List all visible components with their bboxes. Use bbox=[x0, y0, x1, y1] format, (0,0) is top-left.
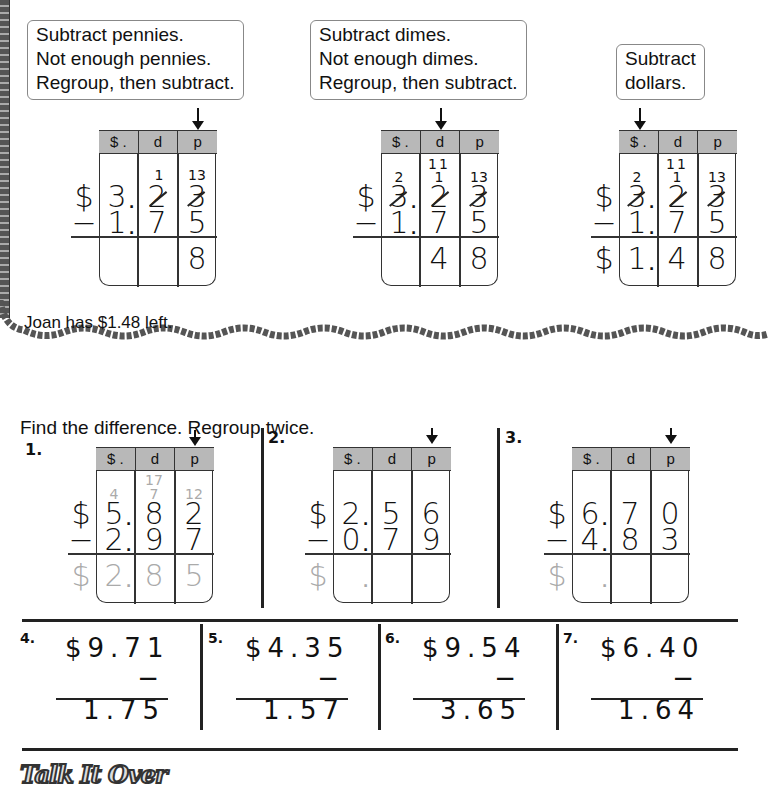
conclusion-text: Joan has $1.48 left. bbox=[24, 313, 172, 333]
problem-label-5: 5. bbox=[208, 630, 223, 646]
answer-dimes: 4 bbox=[659, 242, 695, 276]
header-pennies: p bbox=[178, 131, 217, 153]
answer-line-7[interactable] bbox=[591, 698, 703, 700]
answer-pennies: 8 bbox=[699, 242, 735, 276]
minus-sign: − bbox=[66, 523, 96, 557]
arrow-down-icon bbox=[639, 108, 641, 128]
problem-5-top: $4.35 bbox=[245, 632, 345, 664]
answer-dollars-box[interactable] bbox=[333, 555, 371, 599]
problem-6-top: $9.54 bbox=[422, 632, 522, 664]
answer-dollar-sign: $ bbox=[542, 559, 572, 593]
answer-dimes: 4 bbox=[421, 242, 457, 276]
bottom-pennies: 9 bbox=[413, 523, 449, 557]
vertical-problems-row: 4. $9.71 − 1.75 5. $4.35 − 1.57 6. $9.54… bbox=[0, 630, 768, 740]
answer-dimes[interactable]: 8 bbox=[136, 559, 172, 593]
answer-dollars-box[interactable] bbox=[572, 555, 610, 599]
bottom-dimes: 7 bbox=[139, 206, 175, 240]
answer-line-4[interactable] bbox=[56, 698, 168, 700]
callout-line: Not enough pennies. bbox=[36, 47, 235, 71]
place-value-grid-step1: $ . d p 1 13 $ 3 . 2 3 − 1 . 7 5 8 bbox=[99, 130, 217, 287]
callout-step3: Subtract dollars. bbox=[616, 44, 705, 100]
header-dollars: $ . bbox=[333, 448, 373, 470]
place-value-grid-problem1: $ . d p 4 17 7 12 $ 5 . 8 2 − 2 . 9 7 $ … bbox=[96, 447, 214, 604]
arrow-down-icon bbox=[194, 430, 196, 444]
problem-label-7: 7. bbox=[563, 630, 578, 646]
header-dimes: d bbox=[139, 131, 179, 153]
arrow-down-icon bbox=[197, 108, 199, 128]
answer-pennies-box[interactable] bbox=[413, 555, 449, 599]
arrow-down-icon bbox=[440, 108, 442, 128]
regroup-dimes-top: 17 bbox=[136, 473, 172, 487]
arrow-down-icon bbox=[431, 428, 433, 442]
bottom-dimes: 7 bbox=[373, 523, 409, 557]
header-dollars: $ . bbox=[99, 131, 139, 153]
callout-step1: Subtract pennies. Not enough pennies. Re… bbox=[27, 20, 244, 100]
bottom-pennies: 7 bbox=[176, 523, 212, 557]
bottom-pennies: 5 bbox=[699, 206, 735, 240]
minus-sign: − bbox=[303, 523, 333, 557]
answer-dimes-box[interactable] bbox=[373, 555, 411, 599]
problem-label-4: 4. bbox=[20, 630, 35, 646]
place-value-grid-problem3: $ . d p $ 6 . 7 0 − 4 . 8 3 $ . bbox=[572, 447, 690, 604]
divider bbox=[261, 428, 264, 608]
bottom-dimes: 8 bbox=[612, 523, 648, 557]
answer-dollar-sign: $ bbox=[589, 242, 619, 276]
bottom-dimes: 7 bbox=[659, 206, 695, 240]
answer-pennies: 8 bbox=[461, 242, 497, 276]
callout-line: dollars. bbox=[625, 71, 696, 95]
divider bbox=[22, 619, 738, 622]
header-dimes: d bbox=[421, 131, 461, 153]
problem-4-bottom: − 1.75 bbox=[55, 662, 165, 726]
header-pennies: p bbox=[460, 131, 499, 153]
header-dimes: d bbox=[136, 448, 176, 470]
header-pennies: p bbox=[412, 448, 451, 470]
minus-sign: − bbox=[542, 523, 572, 557]
answer-line-5[interactable] bbox=[236, 698, 348, 700]
callout-line: Subtract dimes. bbox=[319, 23, 518, 47]
callout-step2: Subtract dimes. Not enough dimes. Regrou… bbox=[310, 20, 527, 100]
talk-it-over-logo: Talk It Over bbox=[20, 760, 167, 789]
bottom-pennies: 5 bbox=[461, 206, 497, 240]
problem-7-bottom: − 1.64 bbox=[590, 662, 700, 726]
header-dollars: $ . bbox=[572, 448, 612, 470]
header-pennies: p bbox=[698, 131, 737, 153]
answer-dimes-box[interactable] bbox=[612, 555, 650, 599]
callout-line: Subtract pennies. bbox=[36, 23, 235, 47]
callout-line: Regroup, then subtract. bbox=[319, 71, 518, 95]
answer-pennies-box[interactable] bbox=[652, 555, 688, 599]
answer-dollar-sign: $ bbox=[303, 559, 333, 593]
problem-5-bottom: − 1.57 bbox=[235, 662, 345, 726]
problem-label-3: 3. bbox=[505, 428, 522, 447]
bottom-dimes: 7 bbox=[421, 206, 457, 240]
minus-sign: − bbox=[69, 206, 99, 240]
place-value-grid-problem2: $ . d p $ 2 . 5 6 − 0 . 7 9 $ . bbox=[333, 447, 451, 604]
minus-sign: − bbox=[351, 206, 381, 240]
answer-line-6[interactable] bbox=[413, 698, 525, 700]
callout-line: Subtract bbox=[625, 47, 696, 71]
problem-6-bottom: − 3.65 bbox=[412, 662, 522, 726]
header-dollars: $ . bbox=[96, 448, 136, 470]
header-dimes: d bbox=[373, 448, 413, 470]
callout-line: Regroup, then subtract. bbox=[36, 71, 235, 95]
bottom-pennies: 3 bbox=[652, 523, 688, 557]
answer-dollar-sign: $ bbox=[66, 559, 96, 593]
divider bbox=[497, 428, 500, 608]
problem-label-6: 6. bbox=[385, 630, 400, 646]
problem-7-top: $6.40 bbox=[600, 632, 700, 664]
place-value-grid-step3: $ . d p 2 11 1 13 $ 3 . 2 3 − 1 . 7 5 $ … bbox=[619, 130, 737, 287]
header-dollars: $ . bbox=[381, 131, 421, 153]
problem-4-top: $9.71 bbox=[65, 632, 165, 664]
header-dimes: d bbox=[659, 131, 699, 153]
header-dimes: d bbox=[612, 448, 652, 470]
header-pennies: p bbox=[175, 448, 214, 470]
problem-label-1: 1. bbox=[25, 440, 42, 459]
arrow-down-icon bbox=[670, 428, 672, 442]
minus-sign: − bbox=[589, 206, 619, 240]
callout-line: Not enough dimes. bbox=[319, 47, 518, 71]
problem-label-2: 2. bbox=[268, 428, 285, 447]
answer-pennies: 8 bbox=[179, 242, 215, 276]
decorative-border bbox=[0, 0, 10, 318]
answer-pennies[interactable]: 5 bbox=[176, 559, 212, 593]
header-pennies: p bbox=[651, 448, 690, 470]
header-dollars: $ . bbox=[619, 131, 659, 153]
